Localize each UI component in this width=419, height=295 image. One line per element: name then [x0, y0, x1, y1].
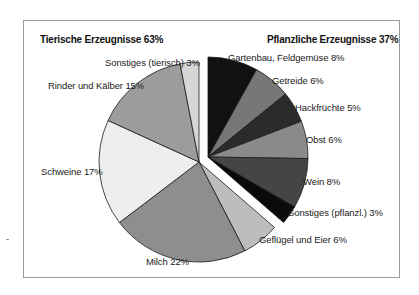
pie-chart [0, 0, 419, 295]
label-milch: Milch 22% [146, 256, 189, 267]
label-rinder: Rinder und Kälber 15% [48, 80, 144, 91]
label-schweine: Schweine 17% [41, 166, 103, 177]
label-wein: Wein 8% [303, 176, 340, 187]
label-sonstiges-pflanzl: Sonstiges (pflanzl.) 3% [288, 207, 383, 218]
label-hackfruechte: Hackfrüchte 5% [295, 102, 361, 113]
label-getreide: Getreide 6% [272, 75, 324, 86]
label-gartenbau: Gartenbau, Feldgemüse 8% [228, 52, 344, 63]
label-sonstiges-tierisch: Sonstiges (tierisch) 3% [105, 57, 200, 68]
label-gefluegel: Geflügel und Eier 6% [259, 234, 347, 245]
label-obst: Obst 6% [306, 134, 342, 145]
